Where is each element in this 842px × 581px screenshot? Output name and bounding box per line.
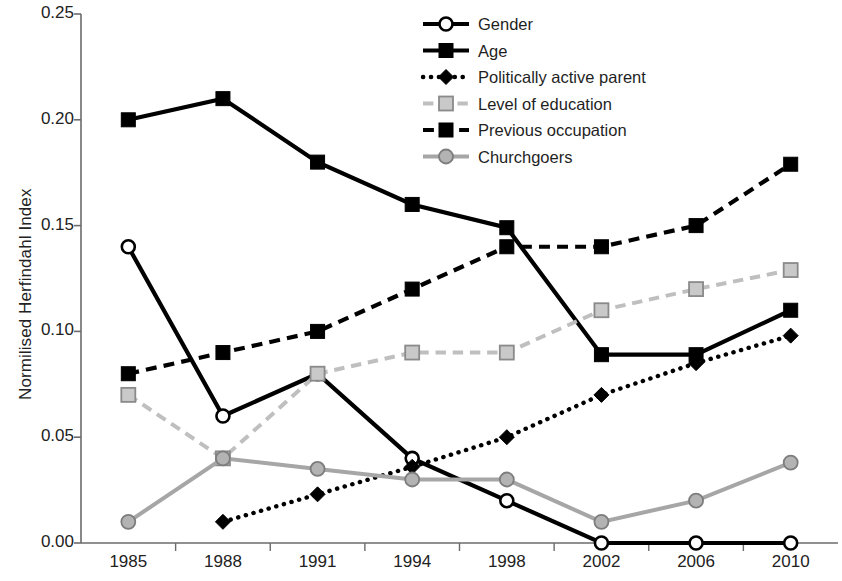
legend-entry [423,150,469,164]
legend-marker [439,70,454,85]
data-point [500,221,514,235]
data-point [784,456,798,470]
data-point [784,303,798,317]
data-point [405,473,419,487]
legend-label: Politically active parent [478,68,646,87]
data-point [121,113,135,127]
data-point [216,410,229,423]
legend-entry [423,44,469,58]
data-point [122,240,135,253]
data-point [311,462,325,476]
data-point [594,303,608,317]
legend-entry [423,70,469,85]
data-point [594,240,608,254]
x-tick-label: 1985 [109,552,147,572]
data-point [594,387,609,402]
data-point [594,515,608,529]
data-point [215,514,230,529]
x-tick-label: 2010 [772,552,810,572]
legend-label: Previous occupation [478,121,627,140]
x-tick-label: 2002 [583,552,621,572]
data-point [594,348,608,362]
data-point [500,494,513,507]
data-point [784,537,797,550]
data-point [121,367,135,381]
y-tick-label: 0.10 [14,320,74,340]
x-tick-label: 1994 [393,552,431,572]
data-point [216,92,230,106]
legend-marker [439,44,453,58]
data-point [689,494,703,508]
y-tick-label: 0.00 [14,532,74,552]
legend-entry [423,18,469,31]
data-point [405,282,419,296]
y-tick-label: 0.05 [14,426,74,446]
data-point [405,346,419,360]
y-tick-label: 0.25 [14,3,74,23]
x-tick-label: 1988 [204,552,242,572]
legend-marker [439,150,453,164]
legend-marker [439,123,453,137]
data-point [311,324,325,338]
data-point [595,537,608,550]
legend-entry [423,97,469,111]
legend-label: Level of education [478,94,612,113]
data-point [689,219,703,233]
x-tick-label: 1998 [488,552,526,572]
data-point [784,263,798,277]
data-point [500,346,514,360]
plot-area [0,0,842,581]
legend-label: Age [478,41,507,60]
legend-marker [439,97,453,111]
data-point [216,346,230,360]
data-point [121,388,135,402]
data-point [499,430,514,445]
legend-label: Gender [478,15,533,34]
chart-figure: Normilised Herfindahl Index 0.000.050.10… [0,0,842,581]
data-point [405,197,419,211]
data-point [216,451,230,465]
x-tick-label: 2006 [677,552,715,572]
series-line [128,458,790,521]
data-point [783,328,798,343]
data-point [310,487,325,502]
legend-label: Churchgoers [478,147,572,166]
legend-marker [440,18,453,31]
data-point [690,537,703,550]
y-tick-label: 0.15 [14,215,74,235]
data-point [500,473,514,487]
data-point [784,157,798,171]
data-point [311,367,325,381]
y-tick-label: 0.20 [14,109,74,129]
data-point [500,240,514,254]
data-point [689,282,703,296]
legend-entry [423,123,469,137]
x-tick-label: 1991 [299,552,337,572]
data-point [311,155,325,169]
data-point [121,515,135,529]
series-line [128,164,790,373]
